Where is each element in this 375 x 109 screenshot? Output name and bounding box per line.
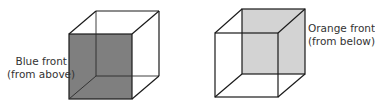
right-cube-back-face [242,9,305,74]
left-cube-label-line1: Blue front [7,55,67,68]
left-cube-edge-br [132,76,159,99]
right-cube [215,9,305,97]
right-cube-edge-br [278,74,305,97]
right-cube-label-line2: (from below) [308,35,375,48]
right-cube-edge-bl [215,74,242,97]
left-cube-edge-tr [132,11,159,34]
left-cube [69,11,159,99]
left-cube-label-line2: (from above) [7,68,67,81]
right-cube-label: Orange front (from below) [308,22,375,47]
left-cube-label: Blue front (from above) [7,55,67,80]
left-cube-front-face [69,34,132,99]
left-cube-edge-tl [69,11,96,34]
right-cube-label-line1: Orange front [308,22,375,35]
right-cube-edge-tl [215,9,242,33]
